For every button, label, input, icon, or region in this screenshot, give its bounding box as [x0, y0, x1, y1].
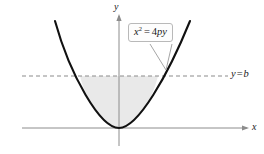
callout-equals: = — [142, 26, 152, 37]
level-line-label-equals: = — [236, 68, 244, 79]
level-line-label-value: b — [244, 68, 249, 79]
y-axis-label: y — [114, 2, 118, 12]
parabola-figure: y x y=b x2=4py — [0, 0, 264, 154]
y-axis-arrowhead — [116, 14, 121, 21]
level-line-label-variable: y — [231, 68, 236, 79]
level-line-label: y=b — [231, 69, 249, 80]
callout-rhs-variables: py — [157, 26, 167, 37]
x-axis-label: x — [252, 122, 256, 132]
equation-callout-box: x2=4py — [128, 23, 173, 42]
x-axis-arrowhead — [242, 125, 249, 130]
